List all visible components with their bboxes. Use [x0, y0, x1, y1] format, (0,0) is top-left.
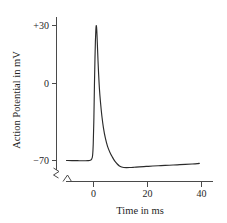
action-potential-curve — [67, 25, 200, 167]
y-tick-label-30: +30 — [33, 20, 49, 31]
x-axis-title: Time in ms — [116, 205, 163, 216]
y-axis-break-icon — [54, 168, 60, 178]
x-tick-label-20: 20 — [143, 188, 153, 199]
y-tick-label-0: 0 — [44, 78, 49, 89]
action-potential-chart: +30 0 −70 Action Potential in mV 0 20 40… — [0, 0, 227, 223]
chart-canvas: +30 0 −70 Action Potential in mV 0 20 40… — [0, 0, 227, 223]
y-axis-group: +30 0 −70 Action Potential in mV — [11, 17, 59, 178]
x-tick-label-40: 40 — [197, 188, 207, 199]
x-axis-break-icon — [63, 175, 72, 182]
x-tick-label-0: 0 — [91, 188, 96, 199]
x-axis-group: 0 20 40 Time in ms — [63, 175, 213, 216]
y-axis-title: Action Potential in mV — [11, 51, 22, 149]
data-group — [67, 25, 200, 167]
y-tick-label-neg70: −70 — [33, 155, 49, 166]
